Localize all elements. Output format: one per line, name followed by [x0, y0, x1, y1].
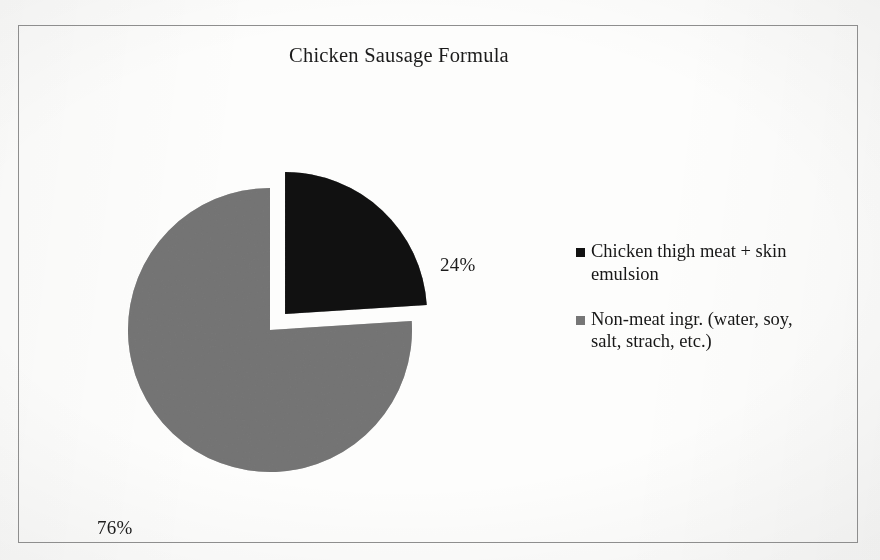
legend-item-non-meat[interactable]: Non-meat ingr. (water, soy, salt, strach…: [576, 308, 838, 354]
legend-swatch-black-square-icon: [576, 248, 585, 257]
data-label-non-meat: 76%: [97, 517, 133, 539]
legend-label-chicken-thigh: Chicken thigh meat + skin emulsion: [591, 240, 827, 286]
chart-legend: Chicken thigh meat + skin emulsion Non-m…: [576, 240, 838, 375]
legend-item-chicken-thigh[interactable]: Chicken thigh meat + skin emulsion: [576, 240, 838, 286]
chart-title: Chicken Sausage Formula: [0, 44, 880, 67]
legend-swatch-gray-square-icon: [576, 316, 585, 325]
legend-label-non-meat: Non-meat ingr. (water, soy, salt, strach…: [591, 308, 827, 354]
pie-chart-plot-area: 24% 76%: [40, 90, 560, 510]
data-label-chicken-thigh: 24%: [440, 254, 476, 276]
pie-chart-svg: [40, 90, 560, 510]
pie-slice-chicken-thigh-texture: [285, 172, 427, 314]
